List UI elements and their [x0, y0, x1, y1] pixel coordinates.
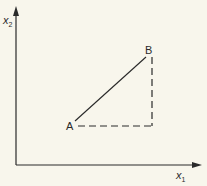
point-b-label: B: [145, 45, 152, 56]
segment-a-b: [75, 57, 146, 121]
x-axis-label-text: x: [176, 169, 182, 181]
y-axis-label-text: x: [3, 14, 9, 26]
x-axis-arrow-icon: [192, 162, 202, 168]
y-axis-label-subscript: 2: [9, 21, 13, 28]
x-axis-label-subscript: 1: [182, 176, 186, 183]
x-axis-label: x1: [176, 170, 185, 181]
diagram-canvas: x2 x1 A B: [0, 0, 207, 186]
point-a-label: A: [66, 121, 73, 132]
y-axis-arrow-icon: [13, 6, 19, 16]
y-axis-label: x2: [3, 15, 12, 26]
diagram-svg: [0, 0, 207, 186]
